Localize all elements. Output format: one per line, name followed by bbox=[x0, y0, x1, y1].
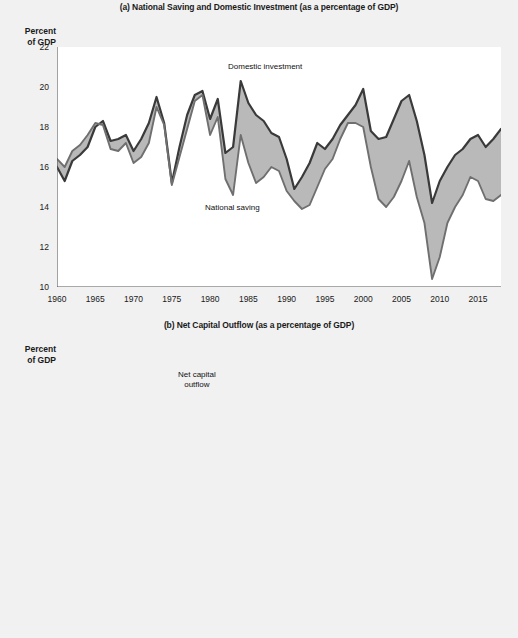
x-tick-label: 2005 bbox=[392, 294, 411, 304]
x-tick-label: 1965 bbox=[86, 294, 105, 304]
x-tick-label: 2010 bbox=[430, 294, 449, 304]
y-tick-label: 14 bbox=[21, 202, 49, 212]
y-tick-label: 22 bbox=[21, 42, 49, 52]
y-tick-label: 12 bbox=[21, 242, 49, 252]
panel-net-capital-outflow: (b) Net Capital Outflow (as a percentage… bbox=[0, 318, 518, 638]
x-tick-label: 1995 bbox=[315, 294, 334, 304]
panel-b-axis-caption-line1: Percent bbox=[4, 344, 56, 355]
y-tick-label: 18 bbox=[21, 122, 49, 132]
annotation-national-saving: National saving bbox=[205, 203, 260, 213]
panel-a-plot-area bbox=[57, 47, 501, 287]
y-tick-label: 10 bbox=[21, 282, 49, 292]
annotation-domestic-investment: Domestic investment bbox=[228, 62, 302, 72]
x-tick-label: 1975 bbox=[162, 294, 181, 304]
panel-national-saving-investment: (a) National Saving and Domestic Investm… bbox=[0, 0, 518, 320]
annotation-net-capital-outflow-line1: Net capital bbox=[178, 370, 216, 380]
y-tick-label: 16 bbox=[21, 162, 49, 172]
y-tick-label: 20 bbox=[21, 82, 49, 92]
x-tick-label: 1980 bbox=[201, 294, 220, 304]
panel-a-chart-canvas bbox=[57, 47, 501, 287]
x-tick-label: 1990 bbox=[277, 294, 296, 304]
panel-b-axis-caption-line2: of GDP bbox=[4, 355, 56, 366]
panel-b-title: (b) Net Capital Outflow (as a percentage… bbox=[0, 320, 518, 330]
x-tick-label: 2000 bbox=[354, 294, 373, 304]
annotation-net-capital-outflow-line2: outflow bbox=[178, 380, 216, 390]
figure-root: (a) National Saving and Domestic Investm… bbox=[0, 0, 518, 638]
x-tick-label: 1970 bbox=[124, 294, 143, 304]
x-tick-label: 2015 bbox=[469, 294, 488, 304]
annotation-net-capital-outflow: Net capital outflow bbox=[178, 370, 216, 389]
x-tick-label: 1960 bbox=[48, 294, 67, 304]
x-tick-label: 1985 bbox=[239, 294, 258, 304]
panel-a-title: (a) National Saving and Domestic Investm… bbox=[0, 2, 518, 12]
panel-b-axis-caption: Percent of GDP bbox=[4, 344, 56, 365]
panel-a-axis-caption-line1: Percent bbox=[4, 26, 56, 37]
